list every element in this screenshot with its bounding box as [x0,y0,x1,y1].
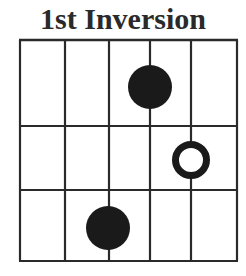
finger-markers [86,65,207,250]
chord-fretboard-diagram [0,0,246,276]
open-ring-icon [176,145,207,176]
filled-dot-icon [86,206,130,250]
filled-dot-icon [128,65,172,109]
